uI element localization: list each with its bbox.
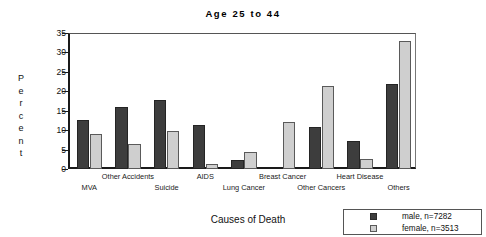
bar [283, 122, 296, 169]
x-axis-tick-label: Lung Cancer [223, 183, 265, 192]
x-axis-title: Causes of Death [118, 214, 378, 225]
bar [386, 84, 399, 169]
bar [347, 141, 360, 169]
legend-swatch-male [370, 213, 377, 220]
y-axis-title-letter: c [14, 110, 28, 123]
bar [360, 159, 373, 169]
y-axis-tick-mark [62, 150, 68, 151]
chart-title: Age 25 to 44 [0, 8, 486, 19]
bar [231, 160, 244, 169]
x-axis-tick-label: Breast Cancer [259, 172, 306, 181]
bar [244, 152, 257, 169]
bar [206, 164, 219, 169]
legend-label: male, n=7282 [402, 212, 452, 221]
bar-group [386, 33, 412, 169]
bar [322, 86, 335, 169]
bar [309, 127, 322, 169]
bar-group [309, 33, 335, 169]
y-axis-title-letter: n [14, 135, 28, 148]
x-axis-tick-label: MVA [82, 183, 97, 192]
y-axis-tick-mark [62, 111, 68, 112]
y-axis-tick-mark [62, 169, 68, 170]
y-axis-title-letter: t [14, 147, 28, 160]
chart-container: Age 25 to 44 Percent MVAOther AccidentsS… [0, 0, 486, 237]
y-axis-title-letter: P [14, 72, 28, 85]
bar [167, 131, 180, 169]
x-axis-tick-label: Other Accidents [102, 172, 154, 181]
bars-layer [68, 33, 416, 169]
y-axis-title-letter: r [14, 97, 28, 110]
y-axis-tick-mark [62, 130, 68, 131]
bar-group [77, 33, 103, 169]
bar-group [231, 33, 257, 169]
x-axis-tick-labels: MVAOther AccidentsSuicideAIDSLung Cancer… [0, 172, 486, 206]
chart-legend: male, n=7282female, n=3513 [343, 209, 482, 235]
x-axis-tick-label: Suicide [154, 183, 178, 192]
bar [115, 107, 128, 169]
bar-group [347, 33, 373, 169]
x-axis-tick-label: Heart Disease [337, 172, 384, 181]
bar-group [154, 33, 180, 169]
y-axis-tick-mark [62, 33, 68, 34]
bar-group [270, 33, 296, 169]
bar-group [115, 33, 141, 169]
bar [90, 134, 103, 169]
bar-group [193, 33, 219, 169]
bar [77, 120, 90, 169]
y-axis-tick-mark [62, 72, 68, 73]
y-axis-tick-mark [62, 91, 68, 92]
x-axis-tick-label: AIDS [197, 172, 214, 181]
bar [128, 144, 141, 169]
y-axis-title-letter: e [14, 85, 28, 98]
bar [399, 41, 412, 169]
legend-swatch-female [370, 225, 377, 232]
x-axis-tick-label: Other Cancers [297, 183, 345, 192]
bar [154, 100, 167, 169]
x-axis-tick-label: Others [387, 183, 409, 192]
legend-label: female, n=3513 [402, 224, 459, 233]
legend-item: female, n=3513 [344, 222, 481, 235]
y-axis-title: Percent [14, 72, 28, 160]
y-axis-tick-mark [62, 52, 68, 53]
bar [193, 125, 206, 169]
y-axis-title-letter: e [14, 122, 28, 135]
